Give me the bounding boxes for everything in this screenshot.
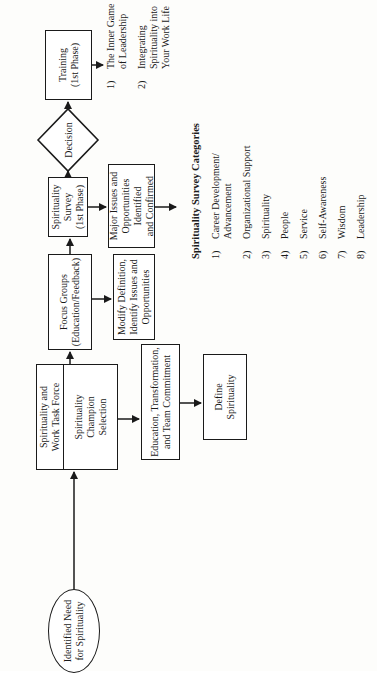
decision-label: Decision	[63, 122, 74, 158]
category-item: 4) People	[279, 109, 291, 259]
survey-box: Spirituality Survey (1st Phase)	[48, 177, 88, 237]
task-force-box: Spirituality and Work Task Force Spiritu…	[36, 364, 118, 470]
survey-label: Spirituality Survey (1st Phase)	[50, 185, 86, 230]
training-items-list: 1) The Inner Game of Leadership 2) Integ…	[105, 0, 179, 89]
training-item: 1) The Inner Game of Leadership	[105, 0, 129, 89]
category-item: 5) Service	[298, 109, 310, 259]
major-issues-box: Major Issues and Opportunities Identifie…	[108, 164, 155, 248]
champion-selection-label: Spirituality Champion Selection	[64, 365, 117, 469]
major-issues-label: Major Issues and Opportunities Identifie…	[108, 172, 156, 240]
modify-definition-box: Modify Definition, Identify Issues and O…	[113, 254, 155, 340]
education-box: Education, Transformation, and Team Comm…	[141, 344, 180, 460]
category-item: 7) Wisdom	[336, 109, 348, 259]
category-item: 6) Self-Awareness	[317, 109, 329, 259]
decision-diamond: Decision	[38, 109, 98, 171]
education-label: Education, Transformation, and Team Comm…	[149, 347, 173, 457]
training-label: Training (1st Phase)	[57, 43, 81, 87]
task-force-label: Spirituality and Work Task Force	[37, 365, 64, 469]
start-label: Identified Need for Spirituality	[62, 600, 86, 662]
category-item: 8) Leadership	[355, 109, 367, 259]
define-label: Define Spirituality	[213, 375, 237, 420]
training-box: Training (1st Phase)	[45, 30, 92, 100]
modify-label: Modify Definition, Identify Issues and O…	[116, 259, 152, 335]
survey-categories-list: Spirituality Survey Categories 1) Career…	[190, 109, 374, 259]
category-item: 3) Spirituality	[260, 109, 272, 259]
category-item: 2) Organizational Support	[241, 109, 253, 259]
start-ellipse-identified-need: Identified Need for Spirituality	[48, 589, 100, 673]
category-item: 1) Career Development/ Advancement	[210, 109, 234, 259]
training-item: 2) Integrating Spirituality into Your Wo…	[136, 0, 172, 89]
define-spirituality-box: Define Spirituality	[203, 354, 247, 440]
categories-title: Spirituality Survey Categories	[190, 109, 202, 259]
focus-groups-label: Focus Groups (Education/Feedback)	[58, 258, 82, 346]
focus-groups-box: Focus Groups (Education/Feedback)	[48, 254, 92, 350]
